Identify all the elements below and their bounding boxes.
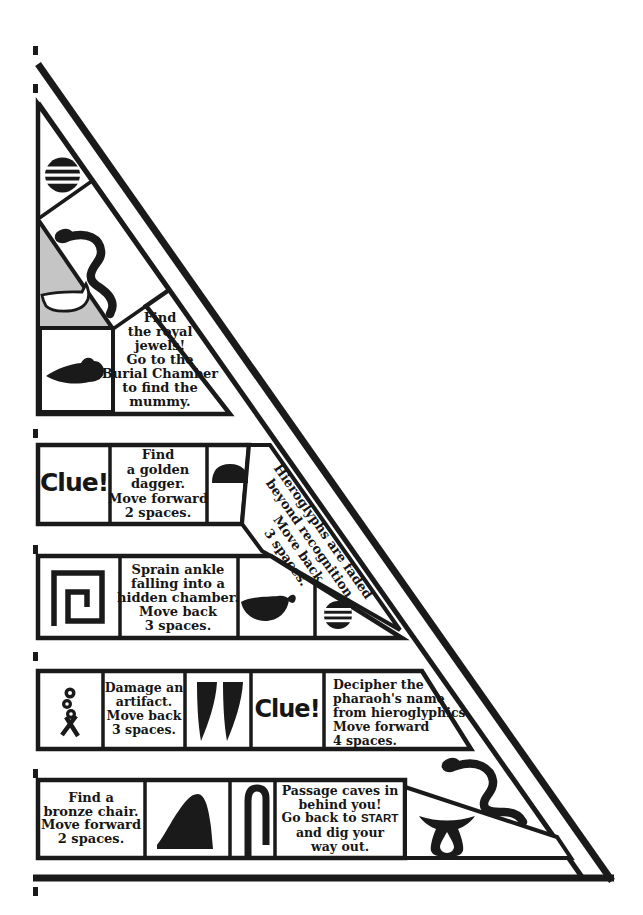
crop-mark: [33, 84, 38, 93]
space-sprain-ankle-text: Sprain ankle falling into a hidden chamb…: [117, 563, 239, 633]
space-golden-dagger-text: Find a golden dagger. Move forward 2 spa…: [108, 448, 208, 521]
crop-mark: [33, 652, 38, 661]
space-bronze-chair-text: Find a bronze chair. Move forward 2 spac…: [41, 791, 141, 845]
sieve-icon: [45, 158, 80, 193]
space-decipher-text: Decipher the pharaoh's name from hierogl…: [333, 678, 470, 748]
space-clue-top-label: Clue!: [40, 468, 108, 497]
crop-mark: [33, 769, 38, 778]
game-board: Find the royal jewels! Go to the Burial …: [0, 0, 643, 915]
space-passage-text: Passage caves in behind you! Go back to …: [282, 784, 399, 854]
board-artwork: [0, 0, 643, 915]
crop-mark: [33, 46, 38, 55]
space-clue-lower-label: Clue!: [254, 695, 319, 723]
space-damage-artifact-text: Damage an artifact. Move back 3 spaces.: [105, 681, 184, 737]
start-word: START: [361, 812, 398, 824]
crop-mark: [33, 429, 38, 438]
space-royal-jewels-text: Find the royal jewels! Go to the Burial …: [102, 311, 218, 409]
crop-mark: [33, 887, 38, 896]
crop-mark: [33, 545, 38, 554]
